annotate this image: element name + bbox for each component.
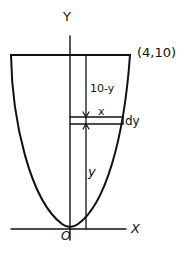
strip-height-label: y [88, 165, 96, 178]
diagram-canvas: Y (4,10) 10-y x dy y O X [0, 0, 193, 255]
y-axis-label: Y [63, 10, 71, 23]
strip-thickness-label: dy [125, 115, 140, 127]
diagram-drawing [0, 0, 193, 255]
x-axis-label: X [131, 222, 140, 235]
depth-above-label: 10-y [90, 83, 114, 94]
corner-point-label: (4,10) [137, 46, 176, 59]
strip-halfwidth-label: x [98, 106, 105, 117]
origin-label: O [61, 230, 70, 242]
